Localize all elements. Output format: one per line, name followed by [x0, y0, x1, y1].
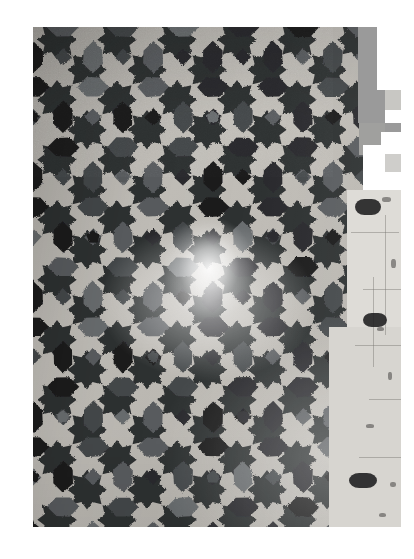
image-canvas	[0, 0, 414, 559]
mosaic-photograph	[33, 27, 401, 527]
zellige-pattern	[33, 27, 401, 527]
